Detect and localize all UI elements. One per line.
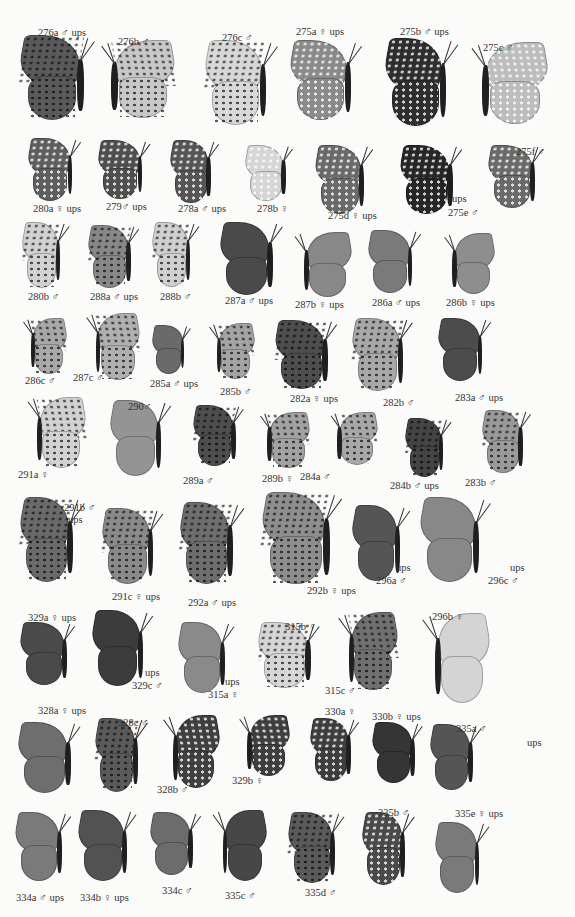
butterfly-body bbox=[349, 634, 354, 682]
specimen-label: 278a ♂ ups bbox=[178, 204, 226, 215]
hindwing bbox=[392, 80, 439, 126]
specimen-label: 286b ♀ ups bbox=[446, 298, 495, 309]
hindwing bbox=[186, 541, 226, 584]
butterfly-image bbox=[170, 140, 218, 202]
butterfly-image bbox=[435, 822, 487, 892]
butterfly-image bbox=[425, 613, 490, 703]
hindwing bbox=[157, 253, 187, 287]
specimen-label: 287c ♂ bbox=[73, 373, 104, 384]
ups-label: ups bbox=[68, 515, 83, 526]
butterfly-image bbox=[88, 225, 138, 287]
butterfly-body bbox=[186, 240, 190, 280]
specimen-label: 288a ♂ ups bbox=[90, 292, 138, 303]
butterfly-image bbox=[352, 318, 412, 390]
specimen-label: 289b ♀ bbox=[262, 474, 294, 485]
hindwing bbox=[101, 345, 135, 380]
butterfly-body bbox=[337, 427, 341, 459]
butterfly-image bbox=[18, 722, 80, 792]
specimen-label: 287b ♀ ups bbox=[295, 300, 344, 311]
specimen-label: 288b ♂ bbox=[160, 292, 192, 303]
butterfly-image bbox=[20, 622, 75, 684]
butterfly-body bbox=[440, 63, 446, 118]
butterfly-body bbox=[133, 738, 138, 783]
specimen-label: 330b ♀ ups bbox=[372, 712, 421, 723]
specimen-label: 286a ♂ ups bbox=[372, 298, 420, 309]
hindwing bbox=[93, 255, 126, 288]
butterfly-body bbox=[260, 64, 266, 117]
butterfly-body bbox=[68, 155, 73, 193]
butterfly-image bbox=[205, 40, 277, 125]
butterfly-body bbox=[138, 156, 143, 192]
butterfly-body bbox=[111, 62, 118, 110]
hindwing bbox=[103, 168, 137, 199]
butterfly-body bbox=[227, 525, 233, 576]
specimen-label: 276a ♂ ups bbox=[38, 28, 86, 39]
butterfly-body bbox=[173, 735, 178, 780]
butterfly-image bbox=[385, 38, 457, 126]
specimen-label: 334b ♀ ups bbox=[80, 893, 129, 904]
butterfly-image bbox=[368, 230, 420, 292]
butterfly-image bbox=[102, 508, 162, 583]
hindwing bbox=[406, 178, 446, 214]
butterfly-image bbox=[25, 318, 67, 373]
specimen-label: 330a ♀ bbox=[325, 707, 356, 718]
butterfly-body bbox=[323, 518, 330, 575]
specimen-label: 315a ♀ bbox=[208, 690, 239, 701]
specimen-label: 292a ♂ ups bbox=[188, 598, 236, 609]
butterfly-image bbox=[88, 313, 140, 379]
hindwing bbox=[297, 78, 344, 120]
hindwing bbox=[494, 175, 530, 208]
specimen-label: 315b ♀ bbox=[285, 622, 317, 633]
specimen-label: 329c ♂ bbox=[132, 681, 163, 692]
specimen-label: 328c ♂ bbox=[118, 718, 149, 729]
specimen-label: 334a ♂ ups bbox=[16, 893, 64, 904]
hindwing bbox=[441, 656, 483, 703]
butterfly-image bbox=[330, 412, 378, 464]
butterfly-image bbox=[315, 145, 373, 213]
specimen-label: 276b ♂ bbox=[118, 37, 150, 48]
butterfly-body bbox=[400, 832, 405, 877]
specimen-label: 289a ♂ bbox=[183, 476, 214, 487]
butterfly-image bbox=[98, 140, 150, 198]
hindwing bbox=[377, 751, 410, 783]
butterfly-body bbox=[410, 739, 415, 776]
hindwing bbox=[28, 76, 77, 121]
specimen-label: 287a ♂ ups bbox=[225, 296, 273, 307]
butterfly-image bbox=[215, 810, 267, 880]
butterfly-image bbox=[260, 412, 310, 467]
butterfly-body bbox=[478, 335, 483, 373]
butterfly-body bbox=[281, 160, 285, 194]
hindwing bbox=[228, 844, 262, 881]
hindwing bbox=[490, 81, 540, 124]
butterfly-image bbox=[193, 405, 243, 465]
butterfly-image bbox=[28, 397, 86, 467]
butterfly-body bbox=[268, 427, 273, 461]
hindwing bbox=[252, 744, 285, 776]
butterfly-image bbox=[152, 325, 190, 373]
butterfly-image bbox=[362, 812, 412, 884]
specimen-label: 275a ♀ ups bbox=[296, 27, 344, 38]
hindwing bbox=[221, 349, 251, 379]
butterfly-image bbox=[180, 502, 242, 584]
butterfly-body bbox=[453, 250, 458, 287]
hindwing bbox=[35, 344, 63, 374]
butterfly-body bbox=[138, 631, 143, 678]
specimen-label: 282a ♀ ups bbox=[290, 394, 338, 405]
specimen-label: 335d ♂ bbox=[305, 888, 337, 899]
butterfly-body bbox=[359, 164, 364, 206]
butterfly-body bbox=[518, 427, 522, 465]
hindwing bbox=[100, 753, 133, 792]
butterfly-body bbox=[126, 242, 131, 280]
butterfly-image bbox=[372, 722, 422, 782]
ups-label: ups bbox=[452, 194, 467, 205]
butterfly-body bbox=[56, 240, 60, 280]
hindwing bbox=[178, 750, 214, 788]
butterfly-image bbox=[405, 418, 450, 476]
butterfly-body bbox=[267, 242, 273, 287]
butterfly-body bbox=[217, 338, 221, 372]
specimen-label: 282b ♂ bbox=[383, 398, 415, 409]
butterfly-body bbox=[156, 421, 161, 468]
hindwing bbox=[443, 348, 477, 381]
butterfly-image bbox=[438, 318, 490, 380]
hindwing bbox=[264, 653, 304, 688]
